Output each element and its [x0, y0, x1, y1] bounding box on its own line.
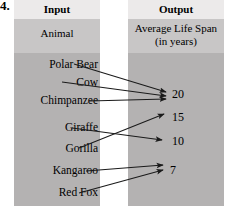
output-subheader-line2: (in years)	[128, 35, 224, 48]
output-item-3: 7	[170, 164, 176, 176]
input-subheader-label: Animal	[14, 27, 100, 40]
input-item-2: Chimpanzee	[0, 94, 98, 106]
input-header-band: Input	[14, 0, 100, 19]
output-column: Output Average Life Span (in years)	[128, 0, 224, 206]
output-header-band: Output	[128, 0, 224, 19]
input-item-5: Kangaroo	[0, 164, 98, 176]
input-item-0: Polar Bear	[0, 58, 98, 70]
output-subheader-line1: Average Life Span	[135, 22, 217, 34]
output-item-2: 10	[172, 135, 184, 147]
output-header-label: Output	[128, 2, 224, 16]
output-body-band	[128, 53, 224, 206]
output-item-1: 15	[172, 111, 184, 123]
output-subheader-label: Average Life Span (in years)	[128, 22, 224, 48]
input-item-3: Giraffe	[0, 121, 98, 133]
exercise-number: 4.	[0, 0, 10, 13]
input-item-6: Red Fox	[0, 186, 98, 198]
exercise-figure: 4. Input Animal Output Average Life Span…	[0, 0, 225, 206]
input-item-4: Gorilla	[0, 142, 98, 154]
input-header-label: Input	[14, 2, 100, 16]
input-item-1: Cow	[0, 76, 98, 88]
output-item-0: 20	[172, 88, 184, 100]
